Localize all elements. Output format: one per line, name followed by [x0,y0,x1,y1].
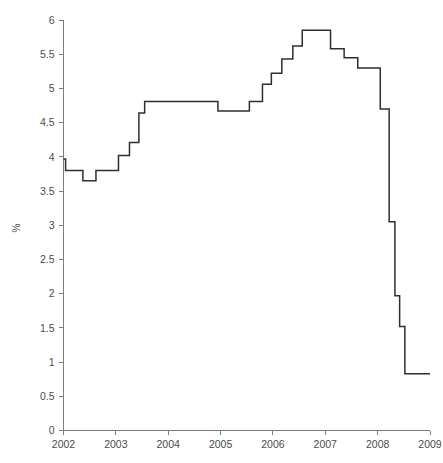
y-tick-label: 4.5 [40,116,55,128]
interest-rate-step-chart: 00.511.522.533.544.555.56 20022003200420… [0,0,443,463]
x-tick-label: 2007 [314,438,338,450]
y-tick-label: 2.5 [40,253,55,265]
x-tick-label: 2003 [104,438,128,450]
x-tick-label: 2002 [52,438,76,450]
x-tick-label: 2009 [418,438,442,450]
y-tick-label: 5 [49,82,55,94]
y-tick-label: 3.5 [40,185,55,197]
y-tick-label: 5.5 [40,48,55,60]
y-tick-label: 4 [49,151,55,163]
data-series-group [64,30,431,373]
y-tick-label: 3 [49,219,55,231]
y-tick-label: 1 [49,356,55,368]
x-axis-tick-labels: 20022003200420052006200720082009 [52,438,442,450]
y-axis: 00.511.522.533.544.555.56 [40,14,64,437]
x-tick-label: 2004 [157,438,181,450]
y-tick-label: 0 [49,424,55,436]
x-axis-ticks [64,431,431,436]
x-tick-label: 2008 [366,438,390,450]
chart-container: 00.511.522.533.544.555.56 20022003200420… [0,0,443,463]
x-axis: 20022003200420052006200720082009 [52,431,442,450]
x-tick-label: 2006 [261,438,285,450]
y-tick-label: 1.5 [40,322,55,334]
y-axis-title: % [11,223,22,232]
x-tick-label: 2005 [209,438,233,450]
y-axis-ticks [59,20,64,431]
y-tick-label: 0.5 [40,390,55,402]
y-tick-label: 2 [49,287,55,299]
series-line-rate [64,30,431,373]
y-tick-label: 6 [49,14,55,26]
y-axis-tick-labels: 00.511.522.533.544.555.56 [40,14,55,437]
